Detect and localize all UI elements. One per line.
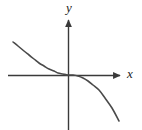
function-curve <box>13 42 119 121</box>
x-axis-label: x <box>127 67 133 80</box>
coordinate-plane-plot <box>0 0 142 130</box>
y-axis-label: y <box>66 1 72 14</box>
graph-figure: y x <box>0 0 142 130</box>
